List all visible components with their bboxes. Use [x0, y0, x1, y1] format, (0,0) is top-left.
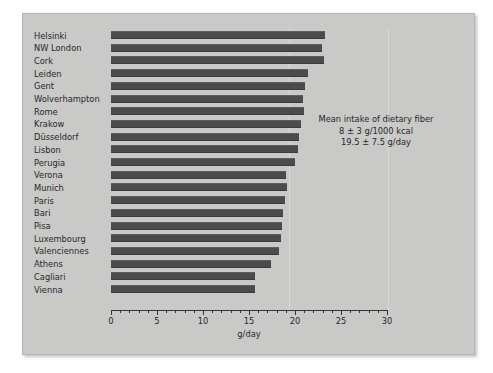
bar: [111, 69, 308, 77]
mean-intake-annotation: Mean intake of dietary fiber 8 ± 3 g/100…: [281, 114, 471, 149]
x-tick-label: 25: [326, 317, 356, 326]
x-tick-major: [157, 310, 158, 315]
bar: [111, 120, 301, 128]
category-label: Verona: [34, 171, 122, 179]
x-tick-minor: [221, 310, 222, 313]
category-label: Wolverhampton: [34, 95, 122, 103]
category-label: Cagliari: [34, 273, 122, 281]
x-tick-major: [341, 310, 342, 315]
category-label: Leiden: [34, 70, 122, 78]
bar: [111, 56, 324, 64]
bar: [111, 95, 303, 103]
plot-area: HelsinkiNW LondonCorkLeidenGentWolverham…: [23, 14, 474, 354]
bar: [111, 82, 305, 90]
bar: [111, 107, 304, 115]
category-label: Helsinki: [34, 32, 122, 40]
x-tick-label: 15: [234, 317, 264, 326]
category-label: Düsseldorf: [34, 133, 122, 141]
category-label: Perugia: [34, 159, 122, 167]
annotation-line-3: 19.5 ± 7.5 g/day: [281, 137, 471, 149]
category-label: Bari: [34, 209, 122, 217]
bar: [111, 158, 295, 166]
category-label: NW London: [34, 44, 122, 52]
x-tick-label: 30: [372, 317, 402, 326]
x-tick-minor: [350, 310, 351, 313]
category-label: Athens: [34, 260, 122, 268]
x-tick-minor: [267, 310, 268, 313]
x-tick-minor: [185, 310, 186, 313]
x-tick-minor: [359, 310, 360, 313]
x-tick-minor: [258, 310, 259, 313]
x-tick-minor: [175, 310, 176, 313]
x-tick-minor: [240, 310, 241, 313]
category-label: Krakow: [34, 120, 122, 128]
x-tick-minor: [304, 310, 305, 313]
bar: [111, 145, 298, 153]
x-tick-minor: [120, 310, 121, 313]
category-label: Munich: [34, 184, 122, 192]
x-tick-minor: [166, 310, 167, 313]
x-tick-label: 10: [188, 317, 218, 326]
annotation-line-1: Mean intake of dietary fiber: [281, 114, 471, 126]
x-tick-minor: [148, 310, 149, 313]
x-tick-major: [387, 310, 388, 315]
x-tick-label: 20: [280, 317, 310, 326]
chart-panel: HelsinkiNW LondonCorkLeidenGentWolverham…: [22, 13, 475, 355]
x-tick-minor: [129, 310, 130, 313]
bar: [111, 247, 279, 255]
x-tick-major: [203, 310, 204, 315]
x-tick-minor: [378, 310, 379, 313]
x-tick-label: 0: [96, 317, 126, 326]
x-tick-minor: [212, 310, 213, 313]
x-tick-major: [295, 310, 296, 315]
category-label: Luxembourg: [34, 235, 122, 243]
x-tick-minor: [277, 310, 278, 313]
scan-artifact-line: [388, 28, 389, 310]
x-tick-major: [249, 310, 250, 315]
category-label: Vienna: [34, 286, 122, 294]
bar: [111, 133, 299, 141]
bar: [111, 196, 285, 204]
x-tick-minor: [323, 310, 324, 313]
category-label: Gent: [34, 82, 122, 90]
x-tick-label: 5: [142, 317, 172, 326]
x-tick-minor: [139, 310, 140, 313]
x-axis-title: g/day: [111, 329, 387, 339]
bar: [111, 183, 287, 191]
x-tick-minor: [332, 310, 333, 313]
bar: [111, 31, 325, 39]
x-tick-major: [111, 310, 112, 315]
bar: [111, 171, 286, 179]
bar: [111, 260, 271, 268]
x-tick-minor: [286, 310, 287, 313]
category-label: Paris: [34, 197, 122, 205]
bar: [111, 285, 255, 293]
category-label: Rome: [34, 108, 122, 116]
x-tick-minor: [194, 310, 195, 313]
x-tick-minor: [369, 310, 370, 313]
bar: [111, 222, 282, 230]
bar: [111, 44, 322, 52]
x-tick-minor: [313, 310, 314, 313]
bar: [111, 272, 255, 280]
category-label: Pisa: [34, 222, 122, 230]
category-label: Valenciennes: [34, 247, 122, 255]
bar: [111, 234, 281, 242]
category-label: Cork: [34, 57, 122, 65]
category-label: Lisbon: [34, 146, 122, 154]
x-tick-minor: [231, 310, 232, 313]
bar: [111, 209, 283, 217]
annotation-line-2: 8 ± 3 g/1000 kcal: [281, 126, 471, 138]
